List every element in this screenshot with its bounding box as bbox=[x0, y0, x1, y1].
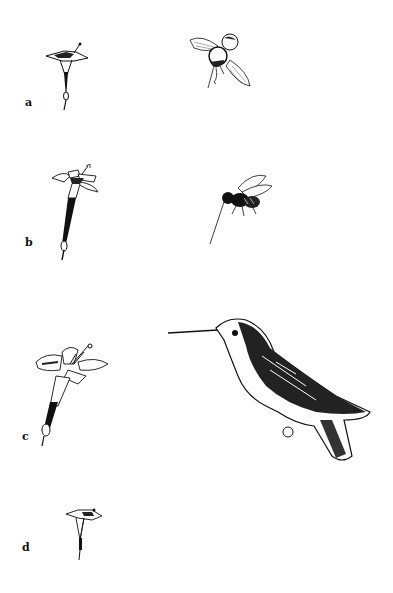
hummingbird-illustration bbox=[166, 316, 378, 468]
long-tongued-fly-illustration bbox=[208, 172, 274, 246]
flower-c-illustration bbox=[34, 342, 114, 446]
panel-label-a: a bbox=[25, 96, 32, 109]
panel-label-b: b bbox=[25, 236, 33, 249]
flower-a-illustration bbox=[44, 42, 92, 112]
hoverfly-illustration bbox=[188, 30, 254, 92]
panel-label-c: c bbox=[22, 430, 29, 443]
flower-d-illustration bbox=[64, 506, 104, 560]
flower-b-illustration bbox=[50, 164, 102, 260]
panel-label-d: d bbox=[22, 541, 30, 554]
